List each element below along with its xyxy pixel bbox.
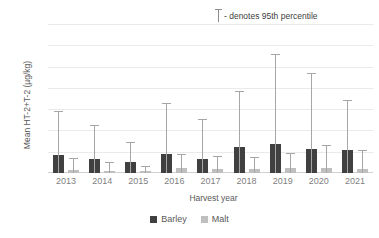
- error-bar-cap: [141, 166, 150, 167]
- error-bar-barley-2017: [202, 120, 203, 173]
- bar-group: [265, 24, 301, 173]
- percentile-annotation: - denotes 95th percentile: [215, 9, 318, 22]
- chart-legend: Barley Malt: [0, 214, 379, 224]
- error-bar-malt-2020: [326, 146, 327, 173]
- x-axis-title: Harvest year: [48, 193, 379, 203]
- error-bar-barley-2019: [275, 55, 276, 173]
- x-axis-tick-label-2014: 2014: [84, 176, 120, 186]
- bar-group: [48, 24, 84, 173]
- x-axis-tick-label-2018: 2018: [229, 176, 265, 186]
- bar-group: [229, 24, 265, 173]
- x-axis-tick-label-2015: 2015: [120, 176, 156, 186]
- error-bar-barley-2015: [130, 143, 131, 173]
- error-bar-cap: [126, 142, 135, 143]
- error-bar-barley-2014: [94, 126, 95, 173]
- bar-group: [301, 24, 337, 173]
- error-bar-barley-2018: [239, 92, 240, 173]
- error-bar-barley-2020: [311, 74, 312, 173]
- legend-label-barley: Barley: [161, 214, 187, 224]
- legend-swatch-barley-icon: [150, 216, 157, 223]
- plot-area: 0204060801001201402013201420152016201720…: [48, 24, 373, 173]
- error-bar-cap: [105, 162, 114, 163]
- x-axis-tick-label-2013: 2013: [48, 176, 84, 186]
- error-bar-malt-2015: [145, 167, 146, 173]
- error-bar-barley-2016: [166, 104, 167, 173]
- x-axis-tick-label-2021: 2021: [337, 176, 373, 186]
- error-bar-barley-2013: [58, 112, 59, 173]
- x-axis-tick-label-2016: 2016: [156, 176, 192, 186]
- x-axis-tick-label-2017: 2017: [192, 176, 228, 186]
- bar-group: [337, 24, 373, 173]
- legend-swatch-malt-icon: [201, 216, 208, 223]
- x-axis-tick-label-2019: 2019: [265, 176, 301, 186]
- chart-container: - denotes 95th percentile Mean HT-2+T-2 …: [0, 0, 379, 238]
- error-bar-cap: [213, 156, 222, 157]
- error-bar-cap: [307, 73, 316, 74]
- error-bar-malt-2014: [109, 163, 110, 173]
- error-bar-cap: [177, 154, 186, 155]
- error-bar-cap: [162, 103, 171, 104]
- error-bar-cap: [250, 157, 259, 158]
- error-bar-cap: [198, 119, 207, 120]
- error-bar-cap: [343, 100, 352, 101]
- legend-item-barley: Barley: [150, 214, 187, 224]
- error-bar-cap: [54, 111, 63, 112]
- error-bar-malt-2018: [254, 158, 255, 173]
- error-bar-malt-2013: [73, 159, 74, 173]
- error-bar-cap: [358, 150, 367, 151]
- bar-group: [192, 24, 228, 173]
- error-bar-malt-2016: [181, 155, 182, 173]
- error-bar-cap: [322, 145, 331, 146]
- error-bar-cap: [286, 153, 295, 154]
- error-bar-glyph-icon: [215, 9, 222, 22]
- error-bar-malt-2017: [217, 157, 218, 173]
- bar-group: [120, 24, 156, 173]
- legend-item-malt: Malt: [201, 214, 229, 224]
- bar-group: [156, 24, 192, 173]
- error-bar-cap: [235, 91, 244, 92]
- bar-group: [84, 24, 120, 173]
- error-bar-barley-2021: [347, 101, 348, 173]
- legend-label-malt: Malt: [212, 214, 229, 224]
- error-bar-cap: [271, 54, 280, 55]
- x-axis-tick-label-2020: 2020: [301, 176, 337, 186]
- error-bar-cap: [90, 125, 99, 126]
- error-bar-malt-2021: [362, 151, 363, 173]
- error-bar-malt-2019: [290, 154, 291, 173]
- percentile-annotation-label: - denotes 95th percentile: [224, 11, 318, 21]
- error-bar-cap: [69, 158, 78, 159]
- y-axis-title: Mean HT-2+T-2 (µg/kg): [22, 30, 32, 180]
